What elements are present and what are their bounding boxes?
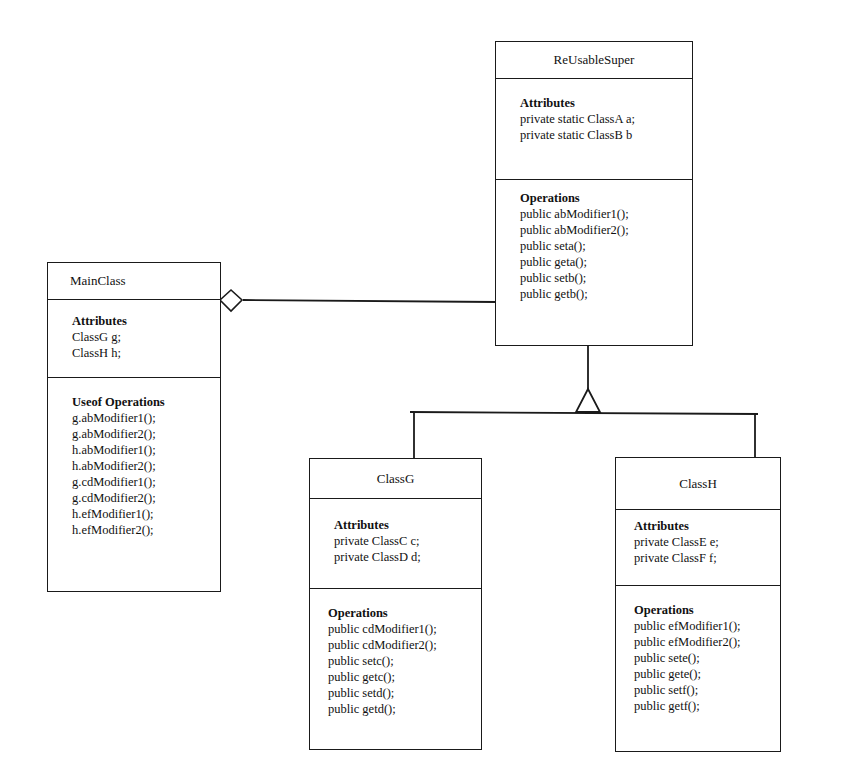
class-reusable-super[interactable]: ReUsableSuper Attributes private static … xyxy=(495,41,693,346)
class-g[interactable]: ClassG Attributes private ClassC c; priv… xyxy=(309,458,482,750)
attribute: private static ClassA a; xyxy=(520,111,692,127)
section-title: Attributes xyxy=(634,518,780,534)
operation: h.abModifier1(); xyxy=(72,442,220,458)
operation: public setf(); xyxy=(634,682,780,698)
attribute: ClassH h; xyxy=(72,345,220,361)
operation: public geta(); xyxy=(520,254,692,270)
aggregation-diamond-icon xyxy=(220,290,242,311)
operation: public getb(); xyxy=(520,286,692,302)
section-title: Operations xyxy=(634,602,780,618)
attributes-section: Attributes private ClassC c; private Cla… xyxy=(310,499,481,589)
operation: public getf(); xyxy=(634,698,780,714)
section-title: Attributes xyxy=(520,95,692,111)
attributes-section: Attributes private ClassE e; private Cla… xyxy=(616,510,780,586)
operation: public setc(); xyxy=(328,653,481,669)
operation: g.cdModifier2(); xyxy=(72,490,220,506)
operations-section: Operations public abModifier1(); public … xyxy=(496,180,692,302)
class-name: MainClass xyxy=(48,263,220,300)
operation: public gete(); xyxy=(634,666,780,682)
attributes-section: Attributes ClassG g; ClassH h; xyxy=(48,300,220,378)
operation: public sete(); xyxy=(634,650,780,666)
class-name: ReUsableSuper xyxy=(496,42,692,79)
attribute: private static ClassB b xyxy=(520,127,692,143)
attribute: ClassG g; xyxy=(72,329,220,345)
section-title: Operations xyxy=(328,605,481,621)
class-h[interactable]: ClassH Attributes private ClassE e; priv… xyxy=(615,457,781,752)
aggregation-line xyxy=(243,300,496,302)
operations-section: Useof Operations g.abModifier1(); g.abMo… xyxy=(48,378,220,538)
operation: h.efModifier2(); xyxy=(72,522,220,538)
operation: g.cdModifier1(); xyxy=(72,474,220,490)
attribute: private ClassC c; xyxy=(334,533,481,549)
operation: public seta(); xyxy=(520,238,692,254)
operation: public efModifier1(); xyxy=(634,618,780,634)
attribute: private ClassE e; xyxy=(634,534,780,550)
section-title: Useof Operations xyxy=(72,394,220,410)
attribute: private ClassF f; xyxy=(634,550,780,566)
attribute: private ClassD d; xyxy=(334,549,481,565)
operation: public abModifier1(); xyxy=(520,206,692,222)
operation: h.abModifier2(); xyxy=(72,458,220,474)
operation: public cdModifier1(); xyxy=(328,621,481,637)
operation: g.abModifier2(); xyxy=(72,426,220,442)
operation: g.abModifier1(); xyxy=(72,410,220,426)
operation: public cdModifier2(); xyxy=(328,637,481,653)
operation: public efModifier2(); xyxy=(634,634,780,650)
section-title: Attributes xyxy=(334,517,481,533)
generalization-bus xyxy=(410,412,758,414)
operation: public setb(); xyxy=(520,270,692,286)
generalization-triangle-icon xyxy=(576,389,600,412)
class-name: ClassG xyxy=(310,459,481,499)
section-title: Operations xyxy=(520,190,692,206)
operation: public abModifier2(); xyxy=(520,222,692,238)
operation: public getd(); xyxy=(328,701,481,717)
operation: h.efModifier1(); xyxy=(72,506,220,522)
class-main-class[interactable]: MainClass Attributes ClassG g; ClassH h;… xyxy=(47,262,221,592)
section-title: Attributes xyxy=(72,313,220,329)
class-name: ClassH xyxy=(616,458,780,510)
operations-section: Operations public efModifier1(); public … xyxy=(616,586,780,714)
operations-section: Operations public cdModifier1(); public … xyxy=(310,589,481,717)
operation: public setd(); xyxy=(328,685,481,701)
operation: public getc(); xyxy=(328,669,481,685)
attributes-section: Attributes private static ClassA a; priv… xyxy=(496,79,692,180)
